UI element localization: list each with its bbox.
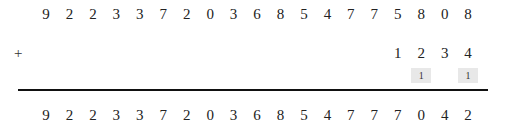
digit: 2: [411, 43, 431, 63]
digit: 7: [364, 4, 384, 24]
result-digit: 2: [83, 105, 103, 125]
digit: 1: [388, 43, 408, 63]
result-digit: 3: [106, 105, 126, 125]
digit: 3: [435, 43, 455, 63]
result-digit: 2: [177, 105, 197, 125]
result-digit: 6: [247, 105, 267, 125]
digit: 7: [153, 4, 173, 24]
digit: 8: [271, 4, 291, 24]
digit: 3: [130, 4, 150, 24]
sum-line: [18, 89, 488, 91]
digit: 2: [177, 4, 197, 24]
digit: 3: [224, 4, 244, 24]
digit: 4: [317, 4, 337, 24]
result-digit: 4: [317, 105, 337, 125]
addend2-row: 1234: [0, 43, 505, 63]
digit: 9: [36, 4, 56, 24]
digit: 8: [458, 4, 478, 24]
result-row: 9223372036854777042: [0, 105, 505, 125]
result-digit: 8: [271, 105, 291, 125]
result-digit: 4: [435, 105, 455, 125]
result-digit: 7: [388, 105, 408, 125]
result-digit: 7: [364, 105, 384, 125]
digit: 0: [435, 4, 455, 24]
result-digit: 0: [411, 105, 431, 125]
digit: 5: [294, 4, 314, 24]
digit: 2: [83, 4, 103, 24]
result-digit: 3: [224, 105, 244, 125]
carry-box: 1: [458, 68, 478, 83]
addend1-row: 9223372036854775808: [0, 4, 505, 24]
digit: 5: [388, 4, 408, 24]
result-digit: 3: [130, 105, 150, 125]
result-digit: 7: [153, 105, 173, 125]
digit: 6: [247, 4, 267, 24]
result-digit: 2: [59, 105, 79, 125]
digit: 7: [341, 4, 361, 24]
digit: 8: [411, 4, 431, 24]
result-digit: 2: [458, 105, 478, 125]
digit: 3: [106, 4, 126, 24]
carry-row: 11: [0, 68, 505, 88]
digit: 4: [458, 43, 478, 63]
carry-box: 1: [411, 68, 431, 83]
result-digit: 9: [36, 105, 56, 125]
digit: 2: [59, 4, 79, 24]
result-digit: 7: [341, 105, 361, 125]
result-digit: 5: [294, 105, 314, 125]
result-digit: 0: [200, 105, 220, 125]
digit: 0: [200, 4, 220, 24]
